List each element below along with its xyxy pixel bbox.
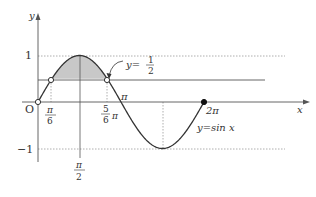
pi-label: π xyxy=(120,91,128,102)
half-label-prefix: y= xyxy=(125,59,140,70)
x-axis-arrow-icon xyxy=(303,100,310,105)
sine-graph-figure: y x O 1 −1 π 6 5 6 π π π 2 2π y=sin x y=… xyxy=(0,0,316,197)
5pi6-num: 5 xyxy=(103,104,109,114)
pi6-num: π xyxy=(46,105,54,115)
y-axis-label: y xyxy=(28,10,35,21)
2pi-label: 2π xyxy=(205,105,219,116)
y-axis-arrow-icon xyxy=(36,13,41,20)
pi6-point xyxy=(48,77,53,82)
x-axis-label: x xyxy=(297,104,303,115)
half-label-num: 1 xyxy=(148,55,154,65)
2pi-point xyxy=(201,99,206,104)
5pi6-point xyxy=(104,77,109,82)
origin-label: O xyxy=(25,103,34,116)
graph-canvas: y x O 1 −1 π 6 5 6 π π π 2 2π y=sin x y=… xyxy=(0,0,316,197)
half-label-leader xyxy=(109,61,123,76)
pi6-den: 6 xyxy=(47,116,53,126)
pi2-num: π xyxy=(75,160,83,170)
curve-label: y=sin x xyxy=(196,122,235,133)
half-label-den: 2 xyxy=(148,66,154,76)
origin-point xyxy=(35,99,40,104)
5pi6-den: 6 xyxy=(103,115,109,125)
pi2-den: 2 xyxy=(76,172,82,182)
5pi6-pi: π xyxy=(111,111,119,121)
y-tick-one: 1 xyxy=(25,49,32,62)
y-tick-minus-one: −1 xyxy=(17,143,33,156)
